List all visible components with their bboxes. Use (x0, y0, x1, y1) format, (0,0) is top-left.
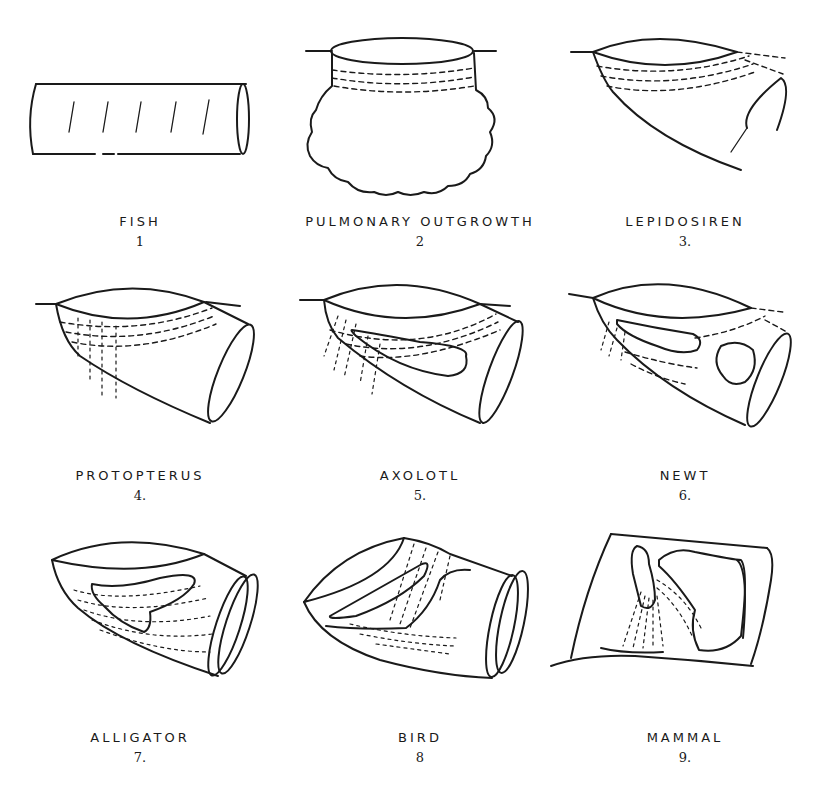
panel-number: 9. (545, 750, 825, 765)
panel-fish: FISH 1 (0, 0, 280, 260)
panel-number: 1 (0, 234, 280, 249)
panel-label: ALLIGATOR (0, 730, 280, 745)
panel-label: FISH (0, 214, 280, 229)
panel-bird: BIRD 8 (280, 520, 560, 798)
panel-number: 4. (0, 488, 280, 503)
panel-label: AXOLOTL (280, 468, 560, 483)
panel-label: MAMMAL (545, 730, 825, 745)
panel-alligator: ALLIGATOR 7. (0, 520, 280, 798)
panel-number: 3. (545, 234, 825, 249)
panel-lepidosiren: LEPIDOSIREN 3. (545, 0, 825, 260)
panel-label: PROTOPTERUS (0, 468, 280, 483)
panel-label: BIRD (280, 730, 560, 745)
panel-mammal: MAMMAL 9. (545, 520, 825, 798)
panel-protopterus: PROTOPTERUS 4. (0, 260, 280, 520)
panel-label: LEPIDOSIREN (545, 214, 825, 229)
panel-pulmonary-outgrowth: PULMONARY OUTGROWTH 2 (280, 0, 560, 260)
panel-number: 5. (280, 488, 560, 503)
panel-label: NEWT (545, 468, 825, 483)
panel-label: PULMONARY OUTGROWTH (280, 214, 560, 229)
panel-number: 6. (545, 488, 825, 503)
panel-number: 7. (0, 750, 280, 765)
panel-axolotl: AXOLOTL 5. (280, 260, 560, 520)
panel-newt: NEWT 6. (545, 260, 825, 520)
panel-number: 2 (280, 234, 560, 249)
panel-number: 8 (280, 750, 560, 765)
